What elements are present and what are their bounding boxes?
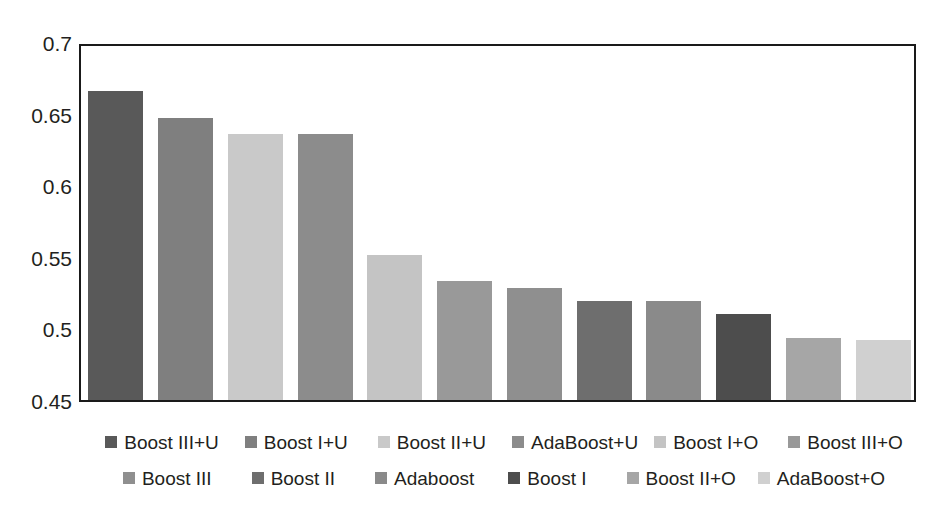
bar [856,340,911,400]
legend-item[interactable]: Boost II+O [627,469,736,488]
y-tick-label: 0.55 [31,248,72,269]
legend-item[interactable]: Boost I [508,469,586,488]
legend-label: AdaBoost+O [777,469,885,488]
legend-item[interactable]: Boost II+U [378,433,486,452]
legend-item[interactable]: Boost III [123,469,212,488]
y-tick-label: 0.5 [43,319,72,340]
legend-swatch-icon [788,436,800,448]
legend-swatch-icon [375,472,387,484]
legend-label: AdaBoost+U [531,433,638,452]
bar [228,134,283,400]
legend-label: Boost II [271,469,335,488]
legend-item[interactable]: Boost II [252,469,335,488]
legend-swatch-icon [654,436,666,448]
plot-area [79,44,916,402]
legend-item[interactable]: Adaboost [375,469,474,488]
y-tick-label: 0.7 [43,33,72,54]
legend-item[interactable]: AdaBoost+U [512,433,638,452]
bar [577,301,632,400]
bar [88,91,143,400]
y-tick-label: 0.65 [31,105,72,126]
legend-swatch-icon [105,436,117,448]
legend-label: Boost I [527,469,586,488]
legend-item[interactable]: Boost III+O [788,433,903,452]
bar [507,288,562,400]
legend-label: Boost I+O [673,433,758,452]
legend-swatch-icon [508,472,520,484]
y-axis: 0.70.650.60.550.50.45 [0,0,72,528]
bar [646,301,701,400]
chart-legend: Boost III+UBoost I+UBoost II+UAdaBoost+U… [79,424,929,496]
y-tick-label: 0.6 [43,176,72,197]
bar [437,281,492,400]
bar [716,314,771,400]
legend-label: Boost III [142,469,212,488]
legend-swatch-icon [512,436,524,448]
bar [786,338,841,400]
y-tick-label: 0.45 [31,391,72,412]
legend-label: Adaboost [394,469,474,488]
bar [158,118,213,400]
legend-label: Boost II+O [646,469,736,488]
legend-label: Boost III+U [124,433,219,452]
bar-chart-figure: 0.70.650.60.550.50.45 Boost III+UBoost I… [0,0,941,528]
legend-item[interactable]: Boost I+U [245,433,348,452]
legend-row: Boost III+UBoost I+UBoost II+UAdaBoost+U… [79,424,929,460]
legend-swatch-icon [245,436,257,448]
legend-swatch-icon [252,472,264,484]
legend-row: Boost IIIBoost IIAdaboostBoost IBoost II… [79,460,929,496]
bars-layer [81,46,914,400]
legend-label: Boost III+O [807,433,903,452]
legend-item[interactable]: Boost I+O [654,433,758,452]
legend-item[interactable]: Boost III+U [105,433,219,452]
legend-item[interactable]: AdaBoost+O [758,469,885,488]
legend-swatch-icon [758,472,770,484]
legend-swatch-icon [627,472,639,484]
bar [298,134,353,400]
bar [367,255,422,400]
legend-label: Boost I+U [264,433,348,452]
legend-swatch-icon [378,436,390,448]
legend-swatch-icon [123,472,135,484]
legend-label: Boost II+U [397,433,486,452]
